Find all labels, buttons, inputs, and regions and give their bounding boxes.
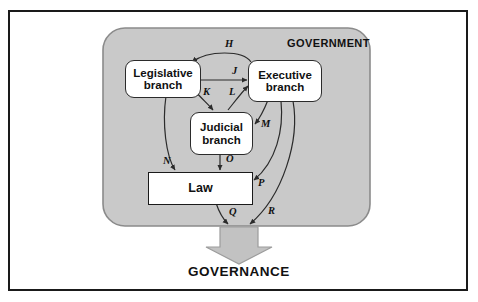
node-judicial-line2: branch	[202, 134, 240, 146]
node-law[interactable]: Law	[148, 172, 253, 205]
node-judicial-branch-label: Judicial branch	[200, 121, 243, 146]
edge-label-K: K	[203, 86, 210, 97]
node-executive-branch-label: Executive branch	[258, 69, 312, 94]
node-executive-line2: branch	[266, 81, 304, 93]
edge-label-Q: Q	[229, 206, 237, 217]
governance-output-label: GOVERNANCE	[0, 264, 478, 279]
edge-label-N: N	[163, 155, 171, 166]
node-law-label: Law	[188, 182, 212, 196]
edge-label-L: L	[229, 86, 235, 97]
node-executive-line1: Executive	[258, 69, 312, 81]
node-executive-branch[interactable]: Executive branch	[248, 60, 322, 102]
government-panel-label: GOVERNMENT	[287, 37, 370, 49]
node-legislative-branch-label: Legislative branch	[133, 67, 192, 92]
edge-label-R: R	[268, 205, 275, 216]
node-judicial-branch[interactable]: Judicial branch	[190, 112, 253, 155]
node-legislative-line1: Legislative	[133, 67, 192, 79]
edge-label-P: P	[258, 177, 264, 188]
edge-label-J: J	[232, 65, 237, 76]
edge-label-H: H	[225, 38, 233, 49]
node-legislative-branch[interactable]: Legislative branch	[125, 60, 201, 98]
node-legislative-line2: branch	[144, 79, 182, 91]
edge-label-M: M	[261, 118, 270, 129]
diagram-root: GOVERNMENT Legislative branch Executive …	[0, 0, 478, 302]
edge-label-O: O	[226, 153, 234, 164]
governance-arrow	[206, 227, 272, 264]
node-judicial-line1: Judicial	[200, 121, 243, 133]
